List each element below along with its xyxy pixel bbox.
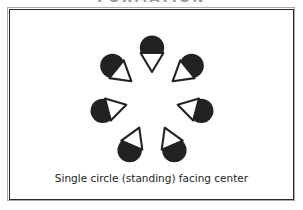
dancer-symbol-6 [117,128,142,163]
page-title: FORMATION [0,0,303,5]
dancer-symbol-1 [140,35,164,72]
dancer-symbol-7 [162,128,187,163]
dancer-body-1 [141,53,164,72]
formation-figure: FORMATION Single circle (standing) facin… [0,0,303,210]
dancer-symbol-3 [173,54,204,82]
dancer-symbol-5 [178,98,214,123]
formation-stage [10,10,293,199]
dancer-symbol-4 [91,98,127,123]
figure-caption: Single circle (standing) facing center [10,172,293,185]
dancer-symbol-2 [100,54,131,82]
formation-diagram-svg [10,10,293,199]
